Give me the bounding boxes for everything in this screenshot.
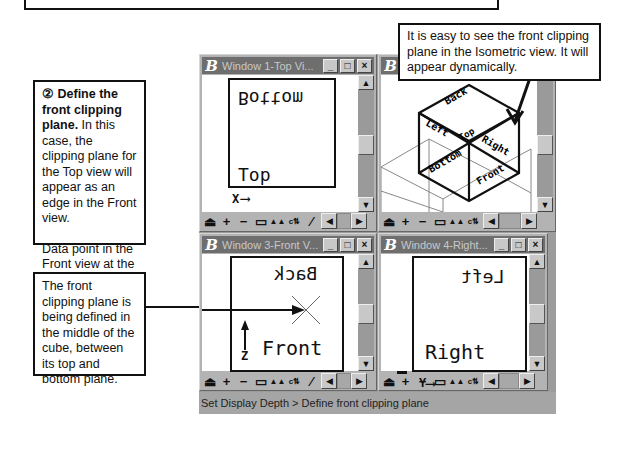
update-view-icon[interactable]: ⏏ bbox=[202, 373, 217, 389]
label-top: Top bbox=[238, 164, 271, 185]
window-area-icon[interactable]: ▭ bbox=[432, 213, 447, 229]
window-2-view-toolbar: ⏏ + − ▭ ▲▲ c⇅ ◀ ▶ bbox=[381, 212, 553, 230]
scroll-right-button[interactable]: ▶ bbox=[519, 373, 535, 389]
label-front: Front bbox=[262, 336, 322, 360]
scroll-left-button[interactable]: ◀ bbox=[483, 213, 499, 229]
status-text: Set Display Depth > Define front clippin… bbox=[201, 397, 429, 409]
app-logo-icon: B bbox=[382, 58, 399, 73]
rotate-view-icon[interactable]: c⇅ bbox=[466, 213, 481, 229]
minimize-button[interactable]: _ bbox=[323, 59, 338, 73]
fit-view-icon[interactable]: ▲▲ bbox=[449, 213, 464, 229]
zoom-in-icon[interactable]: + bbox=[398, 213, 413, 229]
window-1-vscroll[interactable]: ▲ ▼ bbox=[358, 75, 374, 212]
scroll-down-button[interactable]: ▼ bbox=[537, 197, 553, 212]
window-area-icon[interactable]: ▭ bbox=[253, 373, 268, 389]
app-logo-icon: B bbox=[203, 237, 220, 252]
window-4-right-view[interactable]: B Window 4-Right... _ □ × Left Right Y ▲… bbox=[378, 233, 548, 391]
close-button[interactable]: × bbox=[357, 238, 372, 252]
window-1-view-toolbar: ⏏ + − ▭ ▲▲ c⇅ ⁄ ◀ ▶ bbox=[202, 212, 374, 230]
zoom-out-icon[interactable]: − bbox=[415, 213, 430, 229]
zoom-in-icon[interactable]: + bbox=[219, 373, 234, 389]
window-1-titlebar[interactable]: B Window 1-Top Vi... _ □ × bbox=[202, 57, 374, 74]
isometric-callout: It is easy to see the front clipping pla… bbox=[398, 23, 601, 81]
minimize-button[interactable]: _ bbox=[323, 238, 338, 252]
scroll-right-button[interactable]: ▶ bbox=[351, 373, 367, 389]
zoom-in-icon[interactable]: + bbox=[398, 373, 413, 389]
scroll-thumb[interactable] bbox=[358, 135, 374, 155]
scroll-left-button[interactable]: ◀ bbox=[483, 373, 499, 389]
zoom-out-icon[interactable]: − bbox=[236, 373, 251, 389]
maximize-button[interactable]: □ bbox=[340, 238, 355, 252]
axis-x-label: X bbox=[232, 192, 239, 206]
isometric-cube-drawing: Back Left Top Right Bottom Front bbox=[381, 75, 537, 212]
app-logo-icon: B bbox=[203, 58, 220, 73]
fit-view-icon[interactable]: ▲▲ bbox=[270, 213, 285, 229]
microstation-app: B Window 1-Top Vi... _ □ × Bottom Top X … bbox=[199, 54, 556, 414]
close-button[interactable]: × bbox=[528, 238, 543, 252]
svg-text:Right: Right bbox=[480, 133, 512, 158]
update-view-icon[interactable]: ⏏ bbox=[381, 213, 396, 229]
middle-callout: The front clipping plane is being define… bbox=[33, 272, 146, 376]
scroll-up-button[interactable]: ▲ bbox=[358, 75, 374, 90]
zoom-out-icon[interactable]: − bbox=[236, 213, 251, 229]
axis-z-label: Z bbox=[241, 349, 248, 363]
scroll-right-button[interactable]: ▶ bbox=[351, 213, 367, 229]
scroll-down-button[interactable]: ▼ bbox=[358, 197, 374, 212]
window-3-titlebar[interactable]: B Window 3-Front V... _ □ × bbox=[202, 236, 374, 253]
hscroll-thumb[interactable] bbox=[499, 373, 519, 389]
scroll-up-button[interactable]: ▲ bbox=[358, 254, 374, 269]
window-1-canvas[interactable]: Bottom Top X ⟶ bbox=[202, 75, 358, 212]
window-3-title: Window 3-Front V... bbox=[222, 239, 323, 251]
window-3-vscroll[interactable]: ▲ ▼ bbox=[358, 254, 374, 371]
svg-text:Bottom: Bottom bbox=[427, 147, 464, 175]
window-4-view-toolbar: ⏏ + − ▭ ▲▲ c⇅ ◀ ▶ bbox=[381, 372, 545, 390]
maximize-button[interactable]: □ bbox=[511, 238, 526, 252]
instruction-box-top bbox=[24, 0, 499, 10]
scroll-thumb[interactable] bbox=[537, 135, 553, 155]
scroll-right-button[interactable]: ▶ bbox=[521, 213, 537, 229]
window-4-titlebar[interactable]: B Window 4-Right... _ □ × bbox=[381, 236, 545, 253]
window-4-canvas[interactable]: Left Right bbox=[381, 254, 529, 371]
hscroll-thumb[interactable] bbox=[499, 213, 521, 229]
rotate-view-icon[interactable]: c⇅ bbox=[287, 213, 302, 229]
window-1-top-view[interactable]: B Window 1-Top Vi... _ □ × Bottom Top X … bbox=[199, 54, 377, 232]
window-area-icon[interactable]: ▭ bbox=[253, 213, 268, 229]
window-3-front-view[interactable]: B Window 3-Front V... _ □ × Back Z Front… bbox=[199, 233, 377, 391]
label-left-mirrored: Left bbox=[461, 266, 504, 287]
update-view-icon[interactable]: ⏏ bbox=[381, 373, 396, 389]
rotate-view-icon[interactable]: c⇅ bbox=[287, 373, 302, 389]
scroll-thumb[interactable] bbox=[358, 304, 374, 324]
scroll-down-button[interactable]: ▼ bbox=[358, 356, 374, 371]
scroll-thumb[interactable] bbox=[529, 304, 545, 324]
window-1-title: Window 1-Top Vi... bbox=[222, 60, 323, 72]
window-3-canvas[interactable]: Back Z Front bbox=[202, 254, 358, 371]
window-3-view-toolbar: ⏏ + − ▭ ▲▲ c⇅ ⁄ ◀ ▶ bbox=[202, 372, 374, 390]
window-2-vscroll[interactable]: ▼ bbox=[537, 75, 553, 212]
update-view-icon[interactable]: ⏏ bbox=[202, 213, 217, 229]
axis-y-arrow-icon: ⟶ bbox=[426, 375, 434, 391]
scroll-down-button[interactable]: ▼ bbox=[529, 356, 545, 371]
hscroll-thumb[interactable] bbox=[337, 373, 351, 389]
maximize-button[interactable]: □ bbox=[340, 59, 355, 73]
window-2-canvas[interactable]: Back Left Top Right Bottom Front bbox=[381, 75, 537, 212]
zoom-in-icon[interactable]: + bbox=[219, 213, 234, 229]
axis-x-arrow-icon: ⟶ bbox=[241, 190, 249, 206]
window-4-vscroll[interactable]: ▲ ▼ bbox=[529, 254, 545, 371]
step-callout: ② Define the front clipping plane. In th… bbox=[33, 80, 146, 245]
scroll-left-button[interactable]: ◀ bbox=[321, 373, 337, 389]
scroll-up-button[interactable]: ▲ bbox=[529, 254, 545, 269]
step-text: In this case, the clipping plane for the… bbox=[42, 118, 137, 225]
close-button[interactable]: × bbox=[357, 59, 372, 73]
scroll-left-button[interactable]: ◀ bbox=[321, 213, 337, 229]
axis-y-indicator: Y ⟶ bbox=[419, 375, 435, 391]
svg-text:Back: Back bbox=[443, 85, 469, 107]
rotate-view-icon[interactable]: c⇅ bbox=[466, 373, 481, 389]
minimize-button[interactable]: _ bbox=[494, 238, 509, 252]
pan-view-icon[interactable]: ⁄ bbox=[304, 213, 319, 229]
window-4-title: Window 4-Right... bbox=[401, 239, 494, 251]
fit-view-icon[interactable]: ▲▲ bbox=[270, 373, 285, 389]
fit-view-icon[interactable]: ▲▲ bbox=[449, 373, 464, 389]
pan-view-icon[interactable]: ⁄ bbox=[304, 373, 319, 389]
isometric-callout-text: It is easy to see the front clipping pla… bbox=[407, 29, 592, 76]
hscroll-thumb[interactable] bbox=[337, 213, 351, 229]
